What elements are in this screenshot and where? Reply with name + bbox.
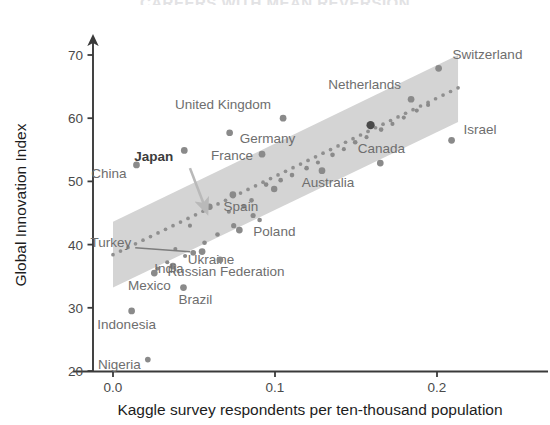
y-axis-tick-label: 40 xyxy=(68,238,83,253)
x-axis-tick-label: 0.2 xyxy=(428,380,447,395)
data-point[interactable] xyxy=(264,182,269,187)
data-point[interactable] xyxy=(390,122,394,126)
labeled-data-point[interactable]: India xyxy=(154,261,184,276)
data-point[interactable] xyxy=(215,232,220,237)
plot-area: 2030405060700.00.10.2Kaggle survey respo… xyxy=(0,0,550,425)
data-point-label: Canada xyxy=(358,141,406,156)
x-axis-tick-label: 0.0 xyxy=(104,380,123,395)
data-point-label: Japan xyxy=(134,149,173,164)
data-point[interactable] xyxy=(202,240,207,245)
data-point[interactable] xyxy=(379,127,384,132)
data-point-marker[interactable] xyxy=(217,256,224,263)
data-point-marker[interactable] xyxy=(319,167,326,174)
data-point-label: China xyxy=(91,166,127,181)
data-point-label: Switzerland xyxy=(453,47,523,62)
y-axis-tick-label: 70 xyxy=(68,48,83,63)
data-point-marker[interactable] xyxy=(435,65,442,72)
y-axis-tick-label: 20 xyxy=(68,364,83,379)
y-axis-title: Global Innovation Index xyxy=(12,123,29,286)
data-point-marker[interactable] xyxy=(230,191,237,198)
data-point-marker[interactable] xyxy=(151,270,158,277)
data-point-marker[interactable] xyxy=(448,137,455,144)
data-point-label: Spain xyxy=(224,199,259,214)
data-point-label: Mexico xyxy=(128,278,171,293)
data-point-marker[interactable] xyxy=(408,96,415,103)
labeled-data-point[interactable]: Indonesia xyxy=(97,308,156,332)
labeled-data-point[interactable]: Brazil xyxy=(179,284,213,306)
x-axis-title: Kaggle survey respondents per ten-thousa… xyxy=(117,401,502,418)
data-point-marker[interactable] xyxy=(190,250,196,256)
data-point-label: Indonesia xyxy=(97,317,156,332)
data-point[interactable] xyxy=(364,135,368,139)
data-point[interactable] xyxy=(188,224,192,228)
labeled-data-point[interactable]: China xyxy=(91,162,140,181)
data-point[interactable] xyxy=(206,203,212,209)
data-point-label: Australia xyxy=(302,175,355,190)
data-point-label: Netherlands xyxy=(328,77,401,92)
highlighted-data-point[interactable] xyxy=(366,121,374,129)
labeled-data-point[interactable]: Germany xyxy=(226,129,295,145)
data-point-marker[interactable] xyxy=(259,151,266,158)
data-point-marker[interactable] xyxy=(226,129,233,136)
data-point[interactable] xyxy=(251,213,256,218)
data-point-label: United Kingdom xyxy=(175,97,271,112)
data-point-label: France xyxy=(211,148,253,163)
data-point[interactable] xyxy=(304,166,309,171)
data-point[interactable] xyxy=(330,153,335,158)
y-axis-tick-label: 50 xyxy=(68,174,83,189)
data-point[interactable] xyxy=(426,103,430,107)
data-point[interactable] xyxy=(231,223,236,228)
labeled-data-point[interactable]: Poland xyxy=(236,224,295,239)
scatter-chart: CAREERS WITH MEAN REVERSION 203040506070… xyxy=(0,0,550,425)
data-point-marker[interactable] xyxy=(377,160,384,167)
data-point-label: India xyxy=(154,261,184,276)
data-point-marker[interactable] xyxy=(133,162,140,169)
data-point-label: Russian Federation xyxy=(167,264,284,279)
data-point-label: Germany xyxy=(240,131,296,146)
data-point[interactable] xyxy=(278,178,283,183)
data-point-marker[interactable] xyxy=(280,115,287,122)
data-point[interactable] xyxy=(402,116,406,120)
data-point[interactable] xyxy=(290,173,295,178)
data-point-label: Israel xyxy=(464,122,497,137)
labeled-data-point[interactable]: Japan xyxy=(134,147,187,164)
labeled-data-point[interactable]: Nigeria xyxy=(98,357,151,372)
labeled-data-point[interactable]: Israel xyxy=(448,122,496,143)
data-point-label: Nigeria xyxy=(98,357,141,372)
labeled-data-point[interactable]: United Kingdom xyxy=(175,97,286,121)
y-axis-tick-label: 30 xyxy=(68,301,83,316)
x-axis-tick-label: 0.1 xyxy=(266,380,285,395)
data-point[interactable] xyxy=(271,186,277,192)
data-point[interactable] xyxy=(415,109,419,113)
data-point-marker[interactable] xyxy=(128,308,135,315)
data-point-marker[interactable] xyxy=(180,284,187,291)
data-point[interactable] xyxy=(183,254,187,258)
data-point-label: Turkey xyxy=(90,235,131,250)
data-point-label: Poland xyxy=(253,224,295,239)
data-point-marker[interactable] xyxy=(236,227,243,234)
data-point-marker[interactable] xyxy=(181,147,188,154)
data-point[interactable] xyxy=(342,147,346,151)
data-point[interactable] xyxy=(257,218,262,223)
y-axis-tick-label: 60 xyxy=(68,111,83,126)
data-point-label: Brazil xyxy=(179,292,213,307)
data-point[interactable] xyxy=(316,160,320,164)
data-point-marker[interactable] xyxy=(145,357,151,363)
